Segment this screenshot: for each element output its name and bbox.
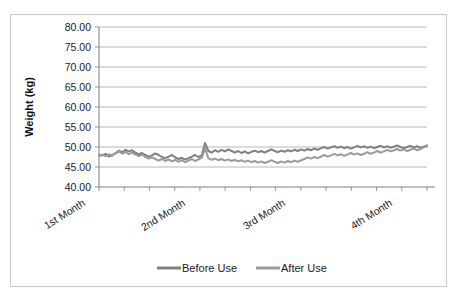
y-axis-ticks xyxy=(95,27,99,187)
y-axis-tick-label: 50.00 xyxy=(65,141,91,153)
y-axis-tick-labels: 80.0075.0070.0065.0060.0055.0050.0045.00… xyxy=(65,21,91,193)
y-axis-tick-label: 55.00 xyxy=(65,121,91,133)
y-axis-tick-label: 60.00 xyxy=(65,101,91,113)
y-axis-title: Weight (kg) xyxy=(23,77,35,137)
line-chart[interactable]: 80.0075.0070.0065.0060.0055.0050.0045.00… xyxy=(0,0,460,300)
y-axis-tick-label: 75.00 xyxy=(65,41,91,53)
series-line-after-use xyxy=(99,146,427,163)
y-axis-tick-label: 45.00 xyxy=(65,161,91,173)
legend-label-before-use[interactable]: Before Use xyxy=(182,262,237,274)
data-series xyxy=(99,143,427,163)
x-axis-category-labels: 1st Month2nd Month3rd Month4th Month xyxy=(42,196,395,233)
y-axis-title-label: Weight (kg) xyxy=(23,77,35,137)
legend-label-after-use[interactable]: After Use xyxy=(281,262,327,274)
x-axis-category-label: 2nd Month xyxy=(139,196,188,233)
chart-canvas: 80.0075.0070.0065.0060.0055.0050.0045.00… xyxy=(0,0,460,300)
y-axis-tick-label: 65.00 xyxy=(65,81,91,93)
chart-legend[interactable]: Before UseAfter Use xyxy=(157,262,327,274)
x-axis-category-label: 4th Month xyxy=(348,196,394,231)
x-axis-category-label: 1st Month xyxy=(42,196,88,231)
y-axis-tick-label: 70.00 xyxy=(65,61,91,73)
x-axis-ticks xyxy=(99,187,427,191)
y-axis-tick-label: 40.00 xyxy=(65,181,91,193)
x-axis-category-label: 3rd Month xyxy=(241,196,288,231)
y-axis-tick-label: 80.00 xyxy=(65,21,91,33)
